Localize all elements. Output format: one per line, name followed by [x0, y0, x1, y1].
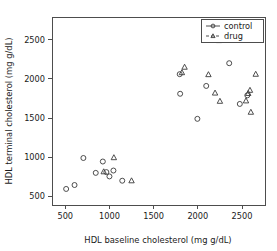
- y-tick-label: 2500: [24, 35, 45, 45]
- y-tick-label: 500: [29, 191, 45, 201]
- x-tick-label: 1500: [143, 211, 164, 221]
- data-point-circle: [178, 91, 183, 96]
- x-axis-title: HDL baseline cholesterol (mg g/dL): [84, 235, 231, 245]
- data-point-triangle: [182, 64, 187, 69]
- data-point-triangle: [248, 109, 253, 114]
- data-point-circle: [107, 174, 112, 179]
- data-point-circle: [93, 170, 98, 175]
- chart-canvas: 5001000150020002500 5001000150020002500 …: [0, 0, 277, 251]
- y-axis-ticks: 5001000150020002500: [24, 35, 52, 202]
- data-point-triangle: [206, 72, 211, 77]
- plot-frame: [52, 17, 265, 205]
- data-point-circle: [227, 61, 232, 66]
- data-series-control: [64, 61, 250, 192]
- data-point-circle: [195, 116, 200, 121]
- y-tick-label: 1500: [24, 113, 45, 123]
- data-point-triangle: [217, 98, 222, 103]
- y-axis-title: HDL terminal cholesterol (mg g/dL): [4, 37, 14, 184]
- x-tick-label: 1000: [99, 211, 120, 221]
- data-point-circle: [120, 178, 125, 183]
- legend-label: drug: [224, 31, 243, 41]
- y-tick-label: 2000: [24, 74, 45, 84]
- x-tick-label: 2000: [187, 211, 208, 221]
- axes-frame: [52, 17, 265, 205]
- data-point-circle: [111, 168, 116, 173]
- data-point-circle: [204, 83, 209, 88]
- data-point-circle: [237, 101, 242, 106]
- data-point-triangle: [253, 71, 258, 76]
- scatter-plot-figure: 5001000150020002500 5001000150020002500 …: [0, 0, 277, 251]
- x-tick-label: 500: [57, 211, 73, 221]
- data-point-circle: [72, 183, 77, 188]
- data-point-triangle: [212, 90, 217, 95]
- data-point-circle: [64, 186, 69, 191]
- data-point-triangle: [129, 178, 134, 183]
- y-tick-label: 1000: [24, 152, 45, 162]
- data-point-circle: [81, 156, 86, 161]
- data-point-circle: [100, 159, 105, 164]
- data-point-triangle: [111, 155, 116, 160]
- legend-label: control: [224, 21, 252, 31]
- x-axis-ticks: 5001000150020002500: [57, 205, 252, 221]
- data-point-triangle: [243, 98, 248, 103]
- data-series-drug: [101, 38, 258, 183]
- x-tick-label: 2500: [232, 211, 253, 221]
- chart-legend: controldrug: [201, 19, 263, 42]
